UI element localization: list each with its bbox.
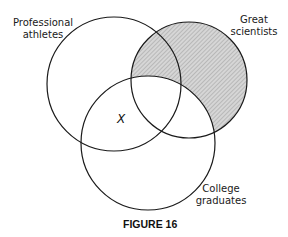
x-marker: X: [117, 112, 125, 126]
label-athletes: Professional athletes: [12, 17, 74, 40]
label-athletes-line1: Professional: [12, 17, 74, 28]
label-graduates: College graduates: [195, 183, 247, 206]
label-graduates-line2: graduates: [195, 195, 247, 206]
label-scientists-line1: Great: [228, 14, 280, 25]
label-scientists: Great scientists: [228, 14, 280, 37]
label-graduates-line1: College: [195, 183, 247, 194]
figure-caption: FIGURE 16: [123, 218, 177, 230]
label-scientists-line2: scientists: [228, 26, 280, 37]
label-athletes-line2: athletes: [12, 29, 74, 40]
